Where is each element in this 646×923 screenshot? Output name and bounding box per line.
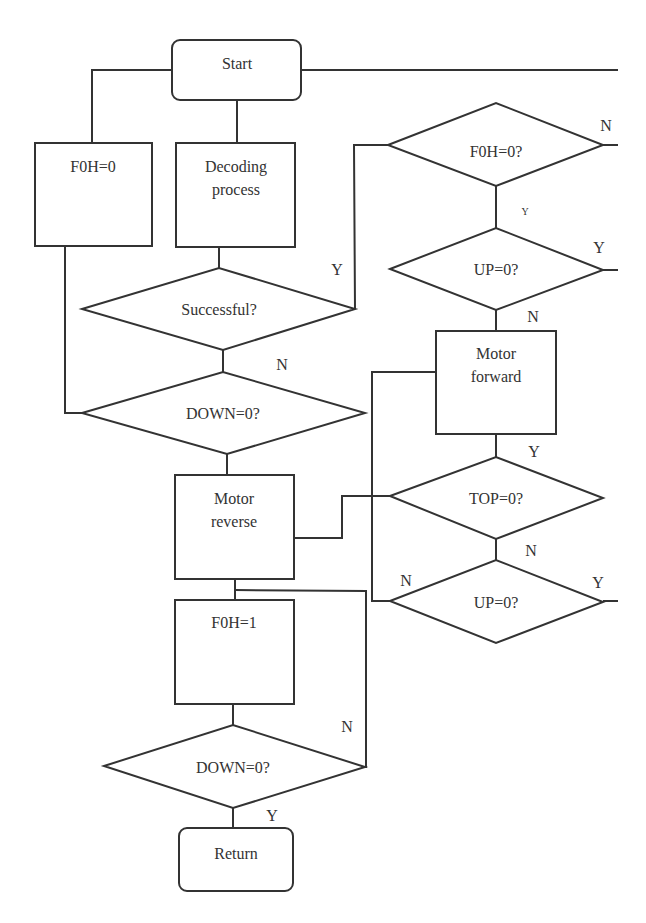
up2-no-label: N (400, 572, 412, 589)
up1-yes-label: Y (593, 239, 605, 256)
motor-reverse-line1: Motor (214, 490, 255, 507)
motor-forward-node: Motor forward (436, 331, 556, 434)
motor-reverse-line2: reverse (211, 513, 257, 530)
up2-yes-label: Y (592, 574, 604, 591)
top-check-decision: TOP=0? (390, 457, 603, 539)
connector-top-to-motor-reverse (294, 496, 390, 538)
start-label: Start (222, 55, 253, 72)
down2-no-label: N (341, 718, 353, 735)
f0h-check-no-label: N (600, 117, 612, 134)
start-node: Start (172, 40, 301, 100)
successful-decision: Successful? (82, 268, 355, 350)
decoding-label-line1: Decoding (205, 158, 267, 176)
edge-labels: N Y Y N Y N Y N N Y N Y (266, 117, 612, 824)
down-check-1-label: DOWN=0? (186, 405, 260, 422)
up1-no-label: N (527, 308, 539, 325)
connector-start-to-f0h0 (92, 70, 172, 143)
top-check-label: TOP=0? (469, 490, 523, 507)
forward-yes-label: Y (528, 443, 540, 460)
successful-yes-label: Y (331, 261, 343, 278)
successful-no-label: N (276, 356, 288, 373)
motor-reverse-node: Motor reverse (175, 475, 294, 579)
f0h-set-1-label: F0H=1 (211, 614, 256, 631)
up-check-2-label: UP=0? (474, 594, 519, 611)
return-node: Return (179, 828, 293, 891)
f0h-check-yes-label: Y (521, 206, 528, 217)
down-check-1-decision: DOWN=0? (82, 372, 365, 454)
f0h-set-0-node: F0H=0 (35, 143, 152, 246)
down-check-2-label: DOWN=0? (196, 759, 270, 776)
motor-forward-line1: Motor (476, 345, 517, 362)
connector-f0h0-to-down1 (65, 246, 82, 413)
successful-label: Successful? (181, 301, 257, 318)
return-label: Return (214, 845, 258, 862)
flowchart-canvas: Start F0H=0 Decoding process Successful?… (0, 0, 646, 923)
up-check-1-label: UP=0? (474, 261, 519, 278)
f0h-set-1-node: F0H=1 (175, 600, 294, 704)
f0h-check-decision: F0H=0? (388, 103, 603, 186)
f0h-set-0-label: F0H=0 (70, 158, 115, 175)
motor-forward-line2: forward (471, 368, 522, 385)
up-check-1-decision: UP=0? (390, 228, 603, 310)
down2-yes-label: Y (266, 807, 278, 824)
f0h-check-label: F0H=0? (470, 143, 523, 160)
connector-successful-yes-to-f0h-check (354, 145, 388, 309)
up-check-2-decision: UP=0? (390, 560, 603, 643)
decoding-label-line2: process (212, 181, 260, 199)
top-no-label: N (525, 542, 537, 559)
decoding-process-node: Decoding process (176, 143, 295, 247)
down-check-2-decision: DOWN=0? (104, 725, 365, 808)
